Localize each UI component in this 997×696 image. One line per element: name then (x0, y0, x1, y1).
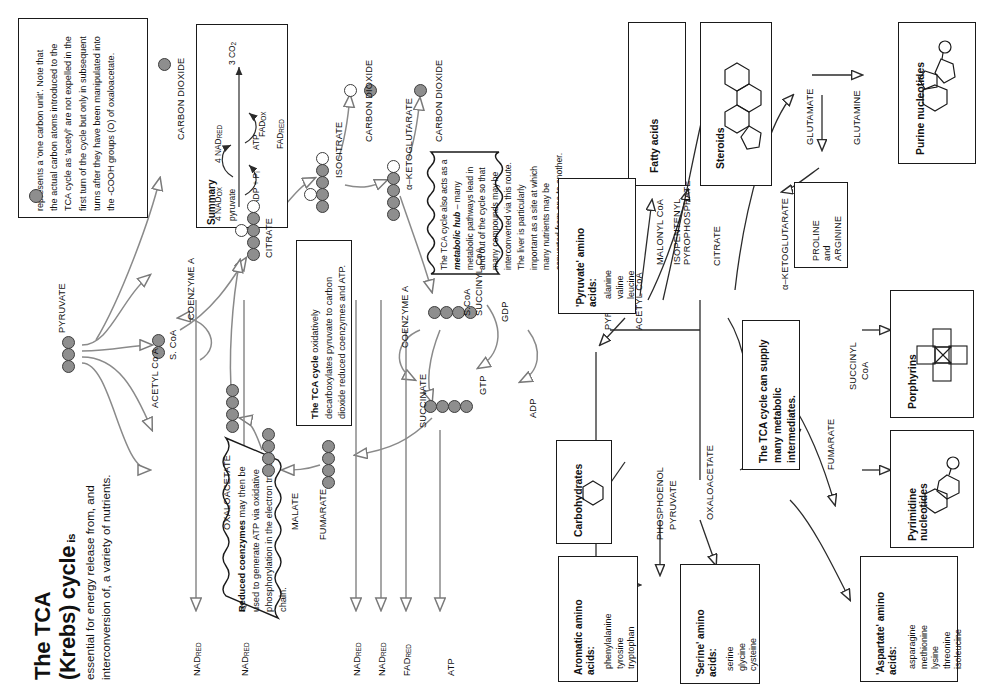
title-line1: The TCA (30, 592, 55, 680)
label-glutamate: GLUTAMATE (805, 88, 815, 145)
label-succinate: SUCCINATE (418, 374, 428, 428)
aspartate-aa-member-1: methionine (919, 595, 931, 669)
title-line2-suffix: is (64, 534, 77, 546)
legend-note-box: represents a 'one carbon unit'. Note tha… (18, 18, 148, 218)
label-coenzyme-a-1: COENZYME A (186, 258, 196, 320)
pyruvate-aa-heading-1: 'Pyruvate' amino (575, 227, 587, 307)
aspartate-aa-heading-1: 'Aspartate' amino (875, 579, 887, 675)
title-body: essential for energy release from, and i… (82, 465, 114, 680)
box-fatty-acids: Fatty acids (628, 22, 686, 186)
label-glutamine: GLUTAMINE (852, 90, 862, 145)
serine-aa-member-0: serine (725, 601, 737, 671)
carbon-unit-swatch (29, 189, 43, 203)
summary-product: 3 CO (227, 45, 237, 65)
porphyrin-structure-icon (891, 291, 975, 419)
serine-aa-heading-1: 'Serine' amino (695, 601, 707, 677)
aromatic-aa-member-2: tryptophan (626, 595, 638, 669)
box-pyrimidine-nucleotides: Pyrimidine nucleotides (890, 430, 974, 548)
output-label-3: NADRED (377, 643, 387, 677)
summary-out3: FAD (275, 133, 285, 149)
box-porphyrins: Porphyrins (890, 290, 974, 418)
summary-in3: FAD (257, 121, 267, 137)
callout-hub: The TCA cycle also acts as a metabolic h… (426, 148, 504, 278)
summary-out2-sub: RED (216, 125, 223, 139)
label-succinyl-s-coa: S.CoA (462, 288, 472, 316)
label-succinyl-coa-right-2: CoA (860, 362, 870, 380)
label-isocitrate: ISOCITRATE (334, 122, 344, 178)
summary-box: Summary pyruvate 3 CO2 ADP + Pi ATP 4 NA… (196, 24, 288, 228)
pyruvate-aa-member-1: valine (615, 227, 627, 299)
callout-hub-bold: metabolic hub (452, 212, 462, 270)
aspartate-aa-member-3: threonine (942, 595, 954, 669)
aromatic-aa-member-0: phenylalanine (603, 595, 615, 669)
molecule-carbon-dioxide-3 (414, 84, 427, 97)
aromatic-aa-heading-2: acids: (585, 597, 597, 675)
callout-oxidative-bold: The TCA cycle (310, 355, 320, 419)
aspartate-aa-member-0: asparagine (907, 595, 919, 669)
label-acetyl-coa: ACETYL Co A (150, 348, 160, 408)
label-oxaloacetate-left: OXALOACETATE (222, 455, 232, 530)
hexose-structure-icon (557, 441, 613, 545)
callout-intermediates-text: The TCA cycle can supply many metabolic … (757, 331, 799, 463)
box-aromatic-amino-acids: Aromatic amino acids: phenylalanine tyro… (558, 556, 638, 682)
label-pep-1: PHOSPHOENOL (655, 467, 665, 540)
steroid-structure-icon (701, 23, 773, 187)
label-atp-cycle: ATP (446, 658, 456, 676)
label-succinyl-coa-left: SUCCINYL CoA (474, 247, 484, 316)
molecule-carbon-dioxide-2-open (344, 84, 357, 97)
label-arginine: ARGININE (833, 181, 844, 261)
pyruvate-aa-heading-2: acids: (587, 227, 599, 307)
page-title: The TCA (Krebs) cycle is essential for e… (30, 440, 114, 680)
callout-reduced-bold: Reduced coenzymes (237, 520, 247, 612)
callout-intermediates: The TCA cycle can supply many metabolic … (742, 320, 800, 470)
summary-in2: 4 NAD (213, 196, 223, 221)
label-pep-2: PYRUVATE (668, 480, 678, 530)
aspartate-aa-heading-2: acids: (887, 579, 899, 675)
summary-substrate: pyruvate (227, 189, 237, 221)
pyrimidine-structure-icon (891, 431, 975, 549)
output-label-0: NADRED (192, 643, 202, 677)
pyruvate-aa-member-0: alanine (603, 227, 615, 299)
box-pyruvate-amino-acids: 'Pyruvate' amino acids: alanine valine l… (558, 178, 636, 314)
serine-aa-heading-2: acids: (707, 601, 719, 677)
molecule-carbon-dioxide-1 (158, 58, 171, 71)
label-succinyl-coa-right-1: SUCCINYL (848, 342, 858, 390)
label-malate: MALATE (290, 493, 300, 530)
title-line2: (Krebs) cycle (55, 546, 80, 680)
aromatic-aa-heading-1: Aromatic amino (573, 597, 585, 675)
label-fatty-acids: Fatty acids (649, 119, 660, 173)
label-proline: PROLINE (811, 181, 822, 261)
aromatic-aa-member-1: tyrosine (615, 595, 627, 669)
box-steroids: Steroids (700, 22, 772, 186)
summary-in2-sub: OX (216, 187, 223, 196)
label-and: and (822, 181, 833, 261)
label-carbon-dioxide-3: CARBON DIOXIDE (434, 60, 444, 142)
legend-note-text: represents a 'one carbon unit'. Note tha… (33, 35, 118, 211)
callout-oxidative: The TCA cycle oxidatively decarboxylates… (296, 240, 352, 426)
label-gtp: GTP (478, 376, 488, 396)
label-fumarate-right: FUMARATE (826, 419, 836, 470)
box-aspartate-amino-acids: 'Aspartate' amino acids: asparagine meth… (860, 556, 958, 682)
label-ketoglutarate-right: α–KETOGLUTARATE (780, 198, 790, 290)
callout-hub-part1: The TCA cycle also acts as a (439, 159, 449, 270)
label-s-coa: S. CoA (168, 330, 178, 360)
output-label-2: NADRED (352, 643, 362, 677)
summary-product-sub: 2 (230, 42, 237, 46)
output-label-1: NADRED (240, 643, 250, 677)
label-coenzyme-a-2: COENZYME A (400, 286, 410, 348)
output-label-4: FADRED (402, 644, 412, 676)
label-carbon-dioxide-1: CARBON DIOXIDE (176, 58, 186, 140)
label-citrate-left: CITRATE (264, 218, 274, 258)
pyruvate-aa-member-2: leucine (626, 227, 638, 299)
label-malonyl-coa: MALONYL CoA (655, 199, 665, 265)
summary-out2: 4 NAD (213, 138, 223, 163)
label-oxaloacetate-right: OXALOACETATE (705, 445, 715, 520)
serine-aa-member-1: glycine (737, 601, 749, 671)
box-serine-amino-acids: 'Serine' amino acids: serine glycine cys… (680, 564, 760, 684)
aspartate-aa-member-2: lysine (930, 595, 942, 669)
summary-in1-sub: i (254, 171, 261, 172)
label-pyruvate-left: PYRUVATE (57, 283, 67, 333)
box-carbohydrates: Carbohydrates (556, 440, 612, 544)
summary-out3-sub: RED (278, 119, 285, 133)
label-fumarate-left: FUMARATE (318, 489, 328, 540)
